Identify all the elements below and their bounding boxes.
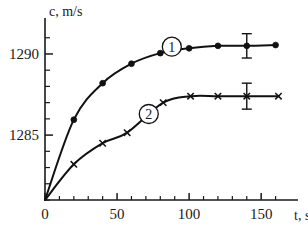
data-point [71, 117, 77, 123]
series-callout-2: 2 [139, 105, 158, 124]
callout-label-1: 1 [168, 40, 175, 55]
y-axis-title: c, m/s [49, 4, 82, 19]
chart-canvas: 05010015012901285c, m/st, s12 [0, 0, 308, 227]
data-point [215, 43, 221, 49]
series-curve-1 [45, 45, 276, 200]
data-point [100, 80, 106, 86]
y-tick-label: 1290 [9, 46, 39, 62]
data-point [129, 61, 135, 67]
data-point [186, 45, 192, 51]
callout-label-2: 2 [145, 107, 152, 122]
series-1 [45, 34, 278, 200]
x-tick-label: 100 [178, 206, 201, 222]
series-callout-1: 1 [162, 37, 181, 56]
x-axis-title: t, s [294, 208, 308, 223]
chart-figure: 05010015012901285c, m/st, s12 [0, 0, 308, 227]
data-point [273, 42, 279, 48]
y-tick-label: 1285 [9, 127, 39, 143]
labels-layer: 05010015012901285c, m/st, s12 [9, 4, 308, 223]
series-layer [45, 34, 282, 200]
x-tick-label: 50 [110, 206, 125, 222]
x-tick-label: 150 [250, 206, 273, 222]
data-point [157, 50, 163, 56]
series-2 [45, 83, 282, 200]
x-tick-label: 0 [41, 206, 49, 222]
series-curve-2 [45, 96, 278, 200]
